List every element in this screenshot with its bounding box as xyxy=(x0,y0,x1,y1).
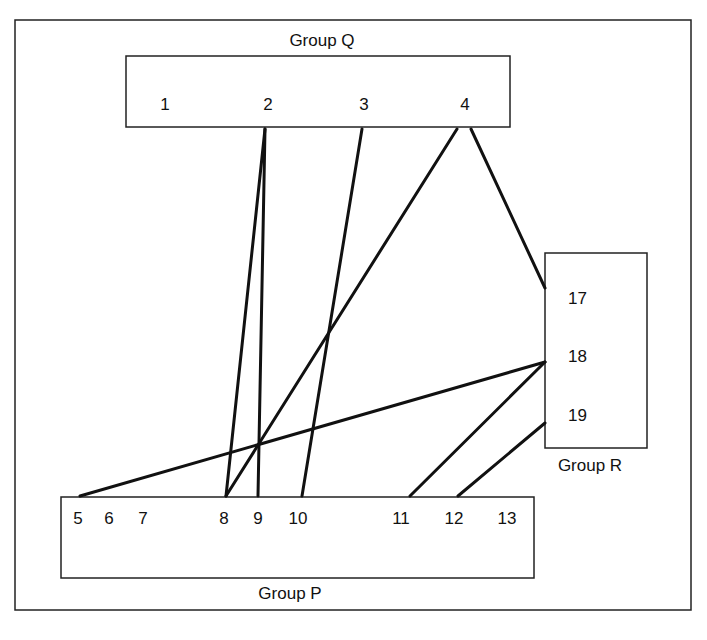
node-labels: 12341718195678910111213 xyxy=(73,95,587,528)
node-label-18: 18 xyxy=(568,347,587,366)
group-q-box xyxy=(126,56,510,127)
node-label-5: 5 xyxy=(73,509,82,528)
node-label-6: 6 xyxy=(104,509,113,528)
group-r-box xyxy=(545,253,647,448)
node-label-7: 7 xyxy=(138,509,147,528)
node-label-8: 8 xyxy=(219,509,228,528)
group-r-title: Group R xyxy=(558,456,622,475)
connection-18-5 xyxy=(80,362,545,496)
connection-diagram: Group Q Group R Group P 1234171819567891… xyxy=(0,0,707,640)
node-label-1: 1 xyxy=(160,95,169,114)
node-label-19: 19 xyxy=(568,406,587,425)
node-label-17: 17 xyxy=(568,289,587,308)
node-label-4: 4 xyxy=(460,95,469,114)
node-label-12: 12 xyxy=(445,509,464,528)
node-label-2: 2 xyxy=(263,95,272,114)
connection-lines xyxy=(80,129,545,496)
connection-4-17 xyxy=(471,129,545,288)
node-label-10: 10 xyxy=(289,509,308,528)
group-q-title: Group Q xyxy=(289,31,354,50)
node-label-11: 11 xyxy=(392,509,410,528)
node-label-3: 3 xyxy=(359,95,368,114)
node-label-9: 9 xyxy=(253,509,262,528)
group-p-title: Group P xyxy=(258,584,321,603)
connection-3-10 xyxy=(302,129,362,496)
node-label-13: 13 xyxy=(498,509,517,528)
